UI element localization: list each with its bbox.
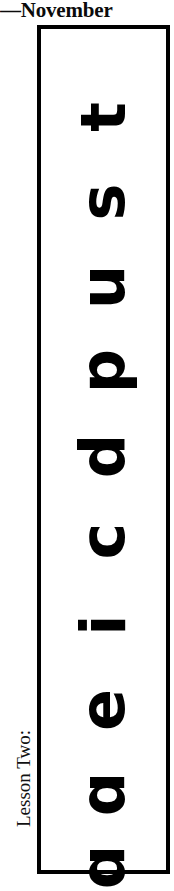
letter-glyph: u: [72, 265, 134, 309]
letter-strip: tsupdcieɑɑ: [41, 29, 166, 870]
letter-cell: c: [41, 499, 166, 583]
letter-glyph: t: [72, 102, 134, 132]
letter-glyph: c: [72, 523, 134, 560]
running-head: —November: [0, 0, 174, 23]
running-head-text: —November: [0, 0, 113, 22]
letter-cell: s: [41, 160, 166, 244]
letter-cell: i: [41, 583, 166, 667]
letter-cell: p: [41, 329, 166, 413]
lesson-side-label-text: Lesson Two:: [11, 687, 37, 827]
letter-cell: ɑ: [41, 752, 166, 836]
letter-cell: u: [41, 245, 166, 329]
letter-glyph: p: [72, 349, 134, 393]
letter-box: tsupdcieɑɑ: [37, 25, 170, 874]
letter-glyph: e: [73, 689, 135, 731]
letter-glyph: ɑ: [72, 845, 134, 889]
letter-cell: e: [41, 668, 166, 752]
letter-glyph: d: [72, 434, 134, 478]
letter-cell: d: [41, 414, 166, 498]
letter-glyph: s: [73, 184, 135, 221]
letter-cell: t: [41, 75, 166, 159]
letter-cell: ɑ: [41, 825, 166, 891]
letter-glyph: i: [72, 614, 134, 635]
letter-glyph: ɑ: [72, 772, 134, 816]
